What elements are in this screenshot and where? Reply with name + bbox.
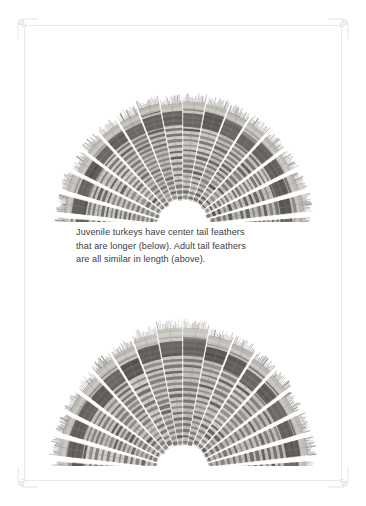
figure-caption: Juvenile turkeys have center tail feathe…	[76, 226, 314, 267]
caption-line-2: that are longer (below). Adult tail feat…	[76, 240, 314, 254]
corner-ornament-bottom-right	[327, 466, 349, 488]
corner-ornament-top-right	[327, 18, 349, 40]
corner-ornament-top-left	[17, 18, 39, 40]
corner-ornament-bottom-left	[17, 466, 39, 488]
adult-tail-fan-photo	[26, 50, 340, 222]
caption-line-1: Juvenile turkeys have center tail feathe…	[76, 226, 314, 240]
caption-line-3: are all similar in length (above).	[76, 253, 314, 267]
page-canvas: Juvenile turkeys have center tail feathe…	[0, 0, 366, 506]
juvenile-tail-fan-photo	[26, 288, 340, 466]
